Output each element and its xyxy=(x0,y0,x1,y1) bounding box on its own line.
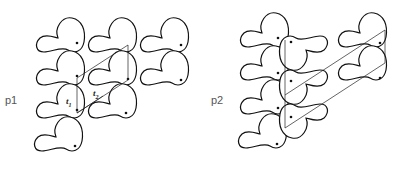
motif-rotated xyxy=(280,36,328,70)
p2-lattice-drawing xyxy=(200,0,397,177)
vector-label-t2: t2 xyxy=(93,88,99,100)
motif xyxy=(89,51,137,85)
motif-rotated xyxy=(280,70,328,104)
motif xyxy=(35,117,83,151)
motif xyxy=(339,46,387,80)
motif xyxy=(37,18,85,52)
panel-p2: p2 xyxy=(200,0,397,177)
p1-lattice-drawing xyxy=(0,0,200,177)
motif-rotated xyxy=(280,104,328,138)
panel-p1: p1 t1 t2 xyxy=(0,0,200,177)
motif xyxy=(339,13,387,47)
motif xyxy=(89,18,137,52)
motif xyxy=(141,51,189,85)
motif xyxy=(141,18,189,52)
vector-label-t1: t1 xyxy=(66,96,72,108)
